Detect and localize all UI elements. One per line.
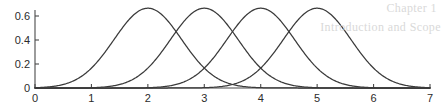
y-axis-tick-label: 0.2 <box>15 58 30 70</box>
axis-ticks <box>35 16 430 88</box>
y-axis-tick-label: 0 <box>24 82 30 94</box>
x-axis-tick-label: 7 <box>427 92 433 104</box>
x-axis-tick-label: 0 <box>32 92 38 104</box>
gaussian-curves-plot: 0123456700.20.40.6 <box>0 0 447 109</box>
x-axis-tick-label: 3 <box>201 92 207 104</box>
curve-gaussian-mu-4 <box>35 8 430 88</box>
curve-gaussian-mu-2 <box>35 8 430 88</box>
x-axis-tick-label: 5 <box>314 92 320 104</box>
x-axis-tick-label: 1 <box>88 92 94 104</box>
chart-screenshot: 0123456700.20.40.6 Chapter 1 Introductio… <box>0 0 447 109</box>
axis-tick-labels: 0123456700.20.40.6 <box>15 10 433 104</box>
curve-gaussian-mu-5 <box>35 8 430 88</box>
x-axis-tick-label: 4 <box>258 92 264 104</box>
y-axis-tick-label: 0.6 <box>15 10 30 22</box>
plot-axes <box>35 10 430 88</box>
x-axis-tick-label: 6 <box>371 92 377 104</box>
curve-gaussian-mu-3 <box>35 8 430 88</box>
y-axis-tick-label: 0.4 <box>15 34 30 46</box>
curve-series-group <box>35 8 430 88</box>
x-axis-tick-label: 2 <box>145 92 151 104</box>
